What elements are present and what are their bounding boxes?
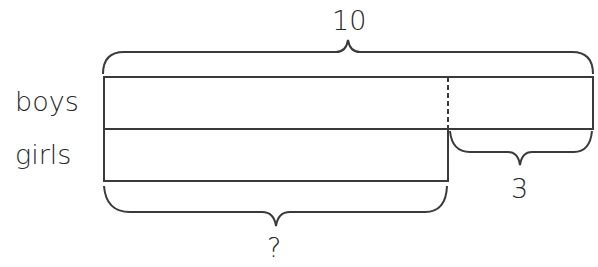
total-brace (103, 40, 593, 74)
row-label-girls: girls (15, 141, 71, 168)
unknown-brace (104, 186, 447, 226)
difference-brace (450, 131, 592, 165)
row-label-boys: boys (15, 88, 79, 115)
difference-label: 3 (511, 175, 528, 202)
total-label: 10 (332, 7, 366, 34)
girls-bar (104, 129, 448, 181)
boys-bar (104, 77, 593, 129)
bar-model-diagram (0, 0, 598, 267)
unknown-label: ? (267, 234, 281, 261)
